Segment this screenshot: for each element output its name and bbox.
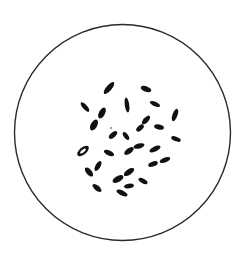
microscope-figure (0, 0, 244, 264)
chromosome (110, 127, 112, 129)
background (0, 0, 244, 264)
chromosome-spread-diagram (0, 0, 244, 264)
